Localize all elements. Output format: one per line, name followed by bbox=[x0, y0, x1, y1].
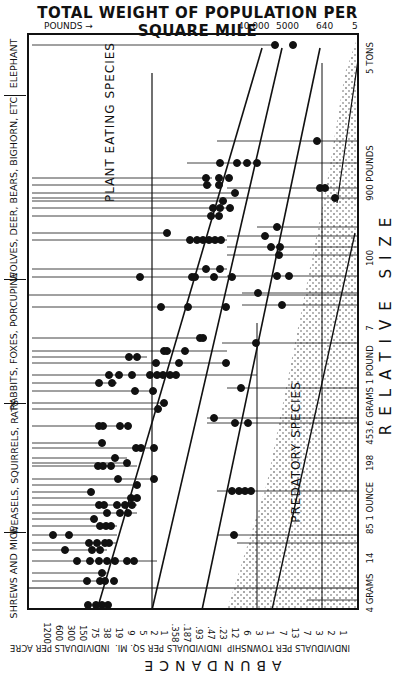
top-tick-5: 5 bbox=[352, 21, 358, 31]
relative-size-title: RELATIVE SIZE bbox=[378, 33, 395, 610]
abundance-title: ABUNDANCE bbox=[110, 658, 310, 674]
rt-14: 14 bbox=[362, 553, 378, 563]
right-axis-ticks: 5 TONS 900 POUNDS 100 7 453.6 GRAMS 1 PO… bbox=[362, 33, 378, 610]
band-weasels-squirrels: WEASELS, SQUIRRELS, RATS bbox=[2, 405, 26, 530]
bt: 3 bbox=[248, 614, 258, 644]
band-elephant: ELEPHANT bbox=[2, 33, 26, 93]
bt: 6 bbox=[236, 614, 246, 644]
top-tick-640: 640 bbox=[316, 21, 333, 31]
bt: 13 bbox=[284, 614, 294, 644]
bottom-caption-acre-sqmi: INDIVIDUALS PER TOWNSHIP INDIVIDUALS PER… bbox=[60, 643, 350, 653]
plot-frame bbox=[27, 33, 359, 610]
rt-1lb: 453.6 GRAMS 1 POUND bbox=[362, 390, 378, 400]
rt-900lb: 900 POUNDS bbox=[362, 168, 378, 178]
top-tick-40000: 40,000 bbox=[238, 21, 270, 31]
band-wolves-deer: WOLVES, DEER, BEARS, BIGHORN, ETC. bbox=[2, 97, 26, 277]
rt-100: 100 bbox=[362, 253, 378, 263]
pounds-label: POUNDS → bbox=[44, 21, 93, 31]
bt: 1 bbox=[259, 614, 269, 644]
top-tick-5000: 5000 bbox=[276, 21, 299, 31]
bt: 2 bbox=[320, 614, 330, 644]
bt: 19 bbox=[108, 614, 118, 644]
bt: 3 bbox=[308, 614, 318, 644]
bt: 9 bbox=[120, 614, 130, 644]
rt-1oz: 85 1 OUNCE bbox=[362, 503, 378, 513]
bt: 1 bbox=[332, 614, 342, 644]
size-class-bands: ELEPHANT WOLVES, DEER, BEARS, BIGHORN, E… bbox=[2, 33, 26, 610]
bt: 12 bbox=[224, 614, 234, 644]
band-shrews-mice: SHREWS AND MICE bbox=[2, 534, 26, 610]
bt: 7 bbox=[296, 614, 306, 644]
predatory-label: PREDATORY SPECIES bbox=[289, 381, 303, 523]
rt-4g: 4 GRAMS bbox=[362, 588, 378, 598]
bt: 2 bbox=[143, 614, 153, 644]
rt-7: 7 bbox=[362, 323, 378, 333]
band-rabbits-foxes: RABBITS, FOXES, PORCUPINE bbox=[2, 281, 26, 401]
bt: 5 bbox=[132, 614, 142, 644]
bottom-axis-ticks: 1200 600 300 150 75 38 19 9 5 2 1 .358 .… bbox=[27, 614, 359, 644]
rt-198: 198 bbox=[362, 458, 378, 468]
rt-5tons: 5 TONS bbox=[362, 53, 378, 63]
plant-eating-label: PLANT EATING SPECIES bbox=[103, 42, 117, 202]
